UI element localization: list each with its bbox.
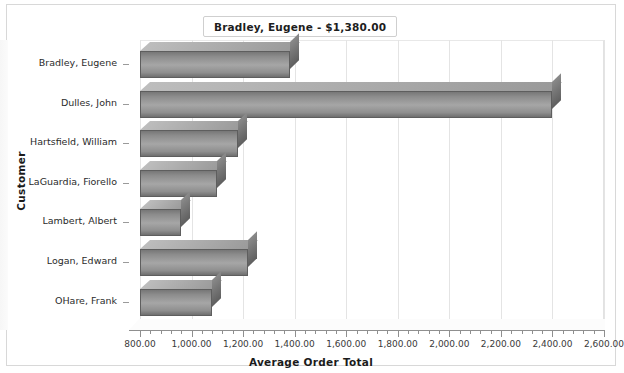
bar-front-face [140, 170, 217, 197]
x-axis-tick-minor [171, 330, 172, 334]
x-axis-tick-minor [212, 330, 213, 334]
x-axis-tick-minor [305, 330, 306, 334]
x-axis-tick-minor [408, 330, 409, 334]
bar-front-face [140, 209, 181, 236]
y-axis-tick-label: Logan, Edward [47, 255, 117, 266]
y-axis-tick-label: Lambert, Albert [42, 215, 117, 226]
x-axis-tick-minor [336, 330, 337, 334]
x-axis-tick-minor [542, 330, 543, 334]
bar-top-face [140, 42, 299, 51]
x-axis-tick-major [295, 330, 296, 337]
x-axis-tick-minor [202, 330, 203, 334]
bar-top-face [140, 280, 222, 289]
x-axis-title: Average Order Total [7, 356, 615, 368]
x-axis-tick-minor [439, 330, 440, 334]
chart-title-box: Bradley, Eugene - $1,380.00 [203, 16, 397, 37]
x-axis-tick-minor [594, 330, 595, 334]
y-axis-tick-label: Bradley, Eugene [39, 57, 117, 68]
x-axis-tick-minor [418, 330, 419, 334]
x-axis-tick-minor [264, 330, 265, 334]
bar-top-face [140, 121, 248, 130]
x-axis-tick-label: 1,400.00 [275, 339, 315, 349]
plot-area [140, 40, 604, 319]
x-axis-tick-label: 1,600.00 [326, 339, 366, 349]
bar[interactable] [140, 51, 290, 78]
x-axis-tick-minor [274, 330, 275, 334]
bar[interactable] [140, 91, 552, 118]
chart-frame: Bradley, Eugene - $1,380.00 Bradley, Eug… [6, 4, 616, 366]
x-axis-tick-minor [315, 330, 316, 334]
gridline-vertical [604, 40, 605, 319]
y-axis-tick-label: LaGuardia, Fiorello [29, 176, 117, 187]
x-axis-tick-minor [233, 330, 234, 334]
y-axis-tick [123, 222, 129, 223]
y-axis-tick [123, 104, 129, 105]
x-axis-tick-label: 2,400.00 [532, 339, 572, 349]
bar-front-face [140, 249, 248, 276]
x-axis-tick-minor [491, 330, 492, 334]
chart-title: Bradley, Eugene - $1,380.00 [214, 21, 386, 33]
x-axis-tick-label: 2,600.00 [584, 339, 624, 349]
x-axis-tick-minor [150, 330, 151, 334]
x-axis-tick-minor [429, 330, 430, 334]
y-axis-tick [123, 302, 129, 303]
x-axis-tick-minor [222, 330, 223, 334]
x-axis-tick-minor [161, 330, 162, 334]
x-axis-tick-minor [284, 330, 285, 334]
x-axis-tick-minor [253, 330, 254, 334]
x-axis-tick-major [346, 330, 347, 337]
x-axis-tick-label: 2,200.00 [481, 339, 521, 349]
x-axis-tick-label: 1,200.00 [223, 339, 263, 349]
x-axis-tick-major [192, 330, 193, 337]
x-axis-tick-minor [367, 330, 368, 334]
x-axis-tick-label: 1,000.00 [172, 339, 212, 349]
x-axis-tick-major [449, 330, 450, 337]
x-axis-tick-minor [181, 330, 182, 334]
bar-front-face [140, 289, 212, 316]
x-axis-tick-minor [480, 330, 481, 334]
x-axis-tick-major [398, 330, 399, 337]
x-axis-tick-major [552, 330, 553, 337]
bar[interactable] [140, 209, 181, 236]
bar[interactable] [140, 170, 217, 197]
x-axis-tick-minor [583, 330, 584, 334]
y-axis-tick [123, 64, 129, 65]
y-axis-title: Customer [15, 121, 27, 241]
bar-top-face [140, 161, 227, 170]
bar[interactable] [140, 249, 248, 276]
bar[interactable] [140, 289, 212, 316]
x-axis-tick-major [243, 330, 244, 337]
x-axis-tick-label: 800.00 [124, 339, 156, 349]
x-axis-tick-minor [470, 330, 471, 334]
y-axis-tick-label: Dulles, John [61, 97, 117, 108]
x-axis-tick-minor [326, 330, 327, 334]
x-axis-tick-major [604, 330, 605, 337]
x-axis-tick-major [140, 330, 141, 337]
x-axis-tick-minor [532, 330, 533, 334]
x-axis-tick-label: 2,000.00 [429, 339, 469, 349]
x-axis-tick-minor [357, 330, 358, 334]
x-axis-tick-minor [563, 330, 564, 334]
x-axis-tick-minor [460, 330, 461, 334]
bar-top-face [140, 82, 562, 91]
y-axis-tick [123, 183, 129, 184]
x-axis-tick-minor [511, 330, 512, 334]
x-axis-tick-minor [387, 330, 388, 334]
bar-front-face [140, 91, 552, 118]
bar-top-face [140, 240, 258, 249]
x-axis-tick-minor [522, 330, 523, 334]
y-axis-tick-label: Hartsfield, William [30, 136, 117, 147]
y-axis-tick [123, 143, 129, 144]
bar-front-face [140, 51, 290, 78]
x-axis-tick-label: 1,800.00 [378, 339, 418, 349]
x-axis-tick-minor [573, 330, 574, 334]
x-axis-tick-minor [377, 330, 378, 334]
y-axis-tick-label: OHare, Frank [55, 295, 117, 306]
x-axis-tick-major [501, 330, 502, 337]
y-axis-tick [123, 262, 129, 263]
